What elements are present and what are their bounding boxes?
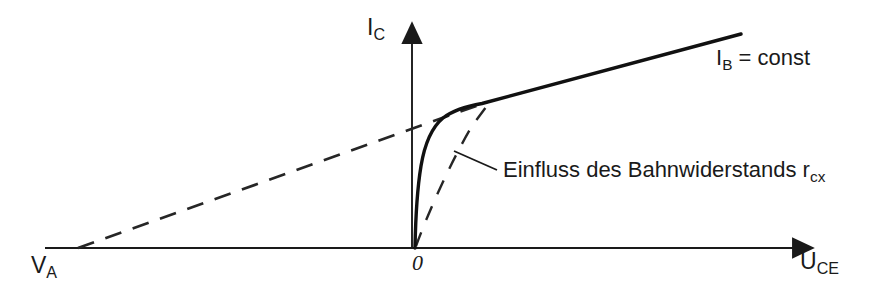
x-axis-label-subscript: CE xyxy=(817,259,839,277)
x-axis-label: UCE xyxy=(800,250,839,273)
curve-condition-subscript: B xyxy=(722,56,732,73)
x-axis-label-main: U xyxy=(800,248,817,274)
early-voltage-label-main: V xyxy=(31,252,46,278)
early-voltage-dashed-line xyxy=(78,104,483,249)
ideal-curve-dashed xyxy=(416,103,489,246)
curve-condition-rest: = const xyxy=(732,45,810,70)
transistor-output-characteristic-figure: IC UCE VA 0 IB = const Einfluss des Bahn… xyxy=(0,0,883,301)
early-voltage-label-subscript: A xyxy=(46,263,57,281)
origin-label: 0 xyxy=(412,252,423,274)
base-resistance-annotation: Einfluss des Bahnwiderstands rcx xyxy=(503,159,825,181)
base-resistance-annotation-main: Einfluss des Bahnwiderstands r xyxy=(503,157,810,182)
annotation-leader-line xyxy=(454,151,497,170)
early-voltage-label: VA xyxy=(31,254,57,277)
curve-condition-label: IB = const xyxy=(716,47,810,69)
base-resistance-annotation-subscript: cx xyxy=(810,168,825,185)
y-axis-label-subscript: C xyxy=(373,25,385,43)
y-axis-label: IC xyxy=(367,16,385,39)
